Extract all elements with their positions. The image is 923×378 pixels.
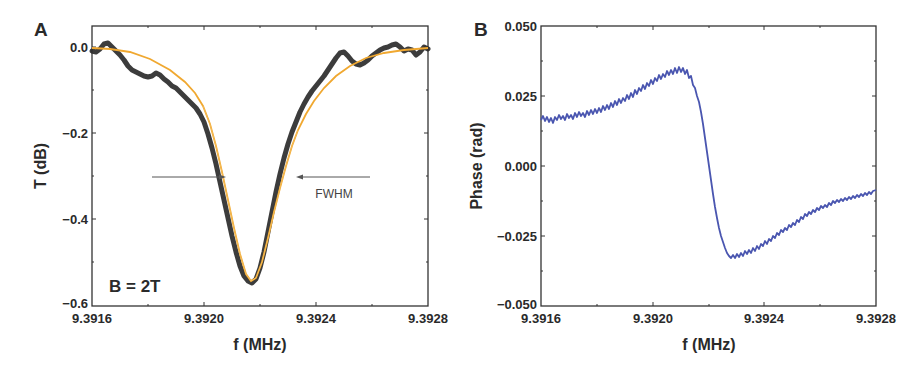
panel-b-ytick-2: 0.000 [504,159,537,174]
panel-a-xtick-0: 9.3916 [72,311,112,326]
panel-a-fit-series [92,48,428,281]
panel-b: B 0.050 0.025 0.000 −0.025 −0.050 9.3916… [468,19,896,353]
panel-b-y-axis-title: Phase (rad) [468,122,485,209]
panel-b-ytick-4: −0.050 [497,297,537,312]
panel-a-y-axis-title: T (dB) [32,143,49,189]
figure: A 0.0 −0.2 −0.4 −0.6 9.3916 9.3920 9.392… [0,0,923,378]
panel-a-ytick-0: 0.0 [70,40,88,55]
panel-a-y-ticks [92,47,428,262]
panel-a-xtick-1: 9.3920 [184,311,224,326]
panel-a-xtick-2: 9.3924 [296,311,337,326]
panel-a-measured-series [92,43,428,283]
fwhm-arrows: FWHM [152,175,370,202]
panel-a-ytick-3: −0.6 [62,296,88,311]
panel-a-ytick-2: −0.4 [62,212,88,227]
panel-a-x-axis-title: f (MHz) [233,336,286,353]
panel-b-xtick-2: 9.3924 [744,311,785,326]
panel-b-xtick-3: 9.3928 [856,311,896,326]
panel-b-phase-series [541,67,876,258]
panel-a-fit-highlight [203,106,298,281]
panel-b-ytick-1: 0.025 [504,89,537,104]
panel-b-xtick-1: 9.3920 [633,311,673,326]
panel-b-ytick-3: −0.025 [497,229,537,244]
panel-b-xtick-0: 9.3916 [521,311,561,326]
fwhm-right-arrowhead-icon [296,175,303,180]
fwhm-label: FWHM [315,187,352,201]
panel-a-label: A [34,19,48,40]
field-annotation: B = 2T [109,277,161,296]
panel-b-ytick-0: 0.050 [504,19,537,34]
panel-a: A 0.0 −0.2 −0.4 −0.6 9.3916 9.3920 9.392… [32,19,448,353]
panel-a-xtick-3: 9.3928 [408,311,448,326]
panel-b-label: B [474,19,488,40]
panel-b-x-axis-title: f (MHz) [682,336,735,353]
panel-a-ytick-1: −0.2 [62,126,88,141]
